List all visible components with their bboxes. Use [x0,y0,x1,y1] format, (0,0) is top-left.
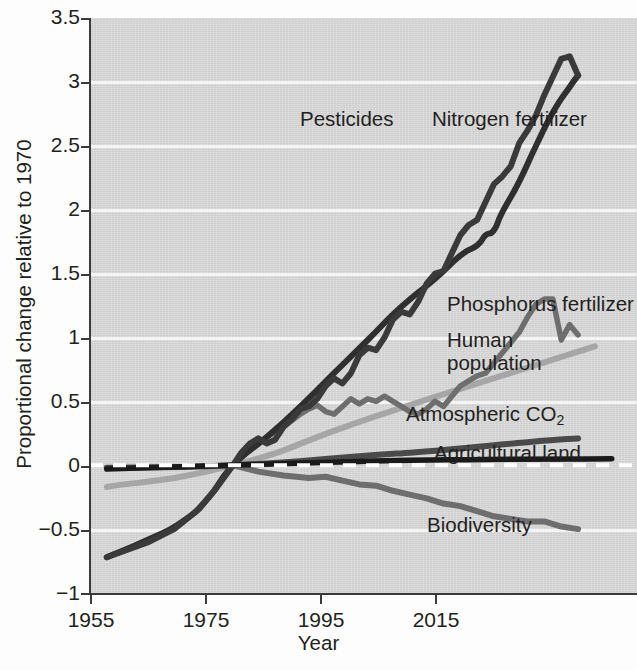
x-tick-label: 1995 [298,608,345,632]
x-tick [435,595,437,604]
x-axis-line [89,593,637,595]
series-label-human-population: Human population [447,329,542,375]
x-axis-title: Year [0,631,637,655]
y-tick [81,274,89,276]
y-tick-label: −1 [56,582,80,603]
y-tick-label: 1 [68,326,80,347]
x-tick-label: 2015 [413,608,460,632]
co2-text: Atmospheric CO [406,402,556,425]
series-label-biodiversity: Biodiversity [427,514,532,537]
x-tick-label: 1975 [183,608,230,632]
x-tick [320,595,322,604]
y-tick-label: 3.5 [51,6,80,27]
co2-subscript: 2 [556,412,564,428]
y-tick [81,82,89,84]
series-label-nitrogen-fertilizer: Nitrogen fertilizer [432,108,587,131]
x-tick [90,595,92,604]
y-tick-label: 0 [68,454,80,475]
x-tick [205,595,207,604]
y-tick-label: 0.5 [51,390,80,411]
series-line-nitrogen-fertilizer [107,76,578,558]
chart-figure: Proportional change relative to 1970 3.5… [0,0,637,670]
y-tick-label: −0.5 [39,518,80,539]
y-axis-line [89,18,91,595]
human-population-line2: population [447,351,542,374]
y-tick [81,593,89,595]
y-tick-label: 2.5 [51,134,80,155]
human-population-line1: Human [447,328,513,351]
y-tick [81,210,89,212]
series-label-agricultural-land: Agricultural land [434,442,581,465]
y-tick-label: 3 [68,70,80,91]
y-tick [81,466,89,468]
y-tick [81,402,89,404]
y-tick [81,146,89,148]
series-label-atmospheric-co2: Atmospheric CO2 [406,403,564,426]
series-label-phosphorus-fertilizer: Phosphorus fertilizer [447,293,634,316]
y-tick [81,338,89,340]
y-tick [81,18,89,20]
y-tick-label-group: 3.5 3 2.5 2 1.5 1 0.5 0 −0.5 −1 [0,0,80,670]
series-label-pesticides: Pesticides [300,108,393,131]
y-tick [81,530,89,532]
y-tick-label: 1.5 [51,262,80,283]
x-tick-label: 1955 [68,608,115,632]
y-tick-label: 2 [68,198,80,219]
